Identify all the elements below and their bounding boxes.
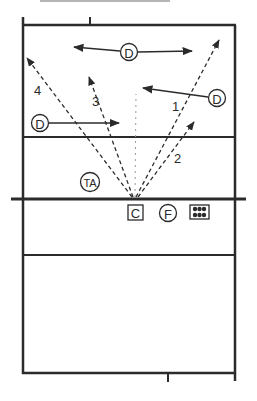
player-f-label: F <box>164 207 172 222</box>
center-dotted-line <box>135 94 136 197</box>
player-d-right: D <box>209 90 226 107</box>
attack-paths <box>27 40 219 197</box>
path-label-4: 4 <box>34 83 41 98</box>
player-ta: TA <box>81 173 100 192</box>
path-label-2: 2 <box>174 151 181 166</box>
player-d-right-label: D <box>212 92 221 107</box>
court <box>11 17 246 382</box>
volleyball-court-diagram: 1 2 3 4 D D D TA C F <box>0 0 257 401</box>
player-ta-label: TA <box>83 177 97 189</box>
path-label-3: 3 <box>92 94 99 109</box>
player-d-top: D <box>121 44 138 61</box>
ball-cart-icon <box>190 205 209 219</box>
attack-path-2 <box>138 122 194 197</box>
path-label-1: 1 <box>172 99 179 114</box>
player-d-top-label: D <box>124 46 133 61</box>
d-top-right-arrow <box>138 51 192 52</box>
coach-c-label: C <box>131 206 140 221</box>
player-f: F <box>160 205 177 222</box>
attack-path-1 <box>136 40 219 197</box>
d-right-arrow <box>143 88 208 97</box>
d-top-left-arrow <box>74 47 120 51</box>
player-d-left: D <box>32 115 49 132</box>
coach-c: C <box>128 205 143 221</box>
player-d-left-label: D <box>35 117 44 132</box>
